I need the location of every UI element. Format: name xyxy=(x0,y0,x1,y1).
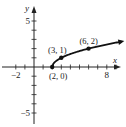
point-label: (3, 1) xyxy=(48,45,67,55)
y-axis-arrow xyxy=(32,6,37,13)
y-tick-label: −5 xyxy=(20,108,30,118)
y-axis-label: y xyxy=(24,3,29,13)
point-label: (2, 0) xyxy=(49,71,68,81)
x-axis-label: x xyxy=(112,55,117,65)
data-point xyxy=(50,65,54,69)
x-tick-label: −2 xyxy=(11,70,21,80)
x-tick-label: 8 xyxy=(105,70,110,80)
data-point xyxy=(86,46,90,50)
x-axis-arrow xyxy=(114,65,121,70)
labels: xy−285−5(2, 0)(3, 1)(6, 2) xyxy=(11,3,117,118)
data-point xyxy=(59,56,63,60)
chart: xy−285−5(2, 0)(3, 1)(6, 2) xyxy=(0,0,126,127)
point-label: (6, 2) xyxy=(79,36,98,46)
curve-arrow xyxy=(118,39,124,45)
y-tick-label: 5 xyxy=(26,16,31,26)
